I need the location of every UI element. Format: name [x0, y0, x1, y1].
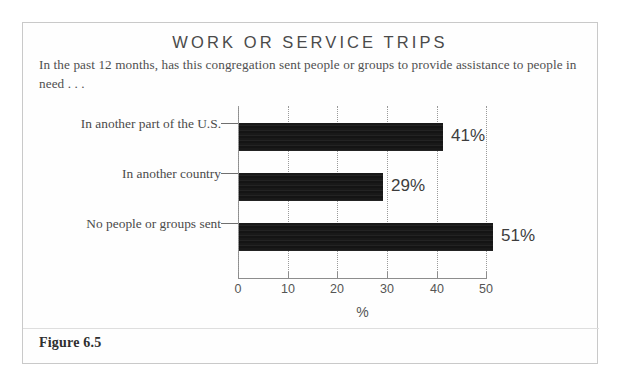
x-axis-label: % — [238, 304, 487, 320]
figure-frame: WORK OR SERVICE TRIPS In the past 12 mon… — [22, 22, 598, 364]
bar-value-1: 29% — [391, 176, 425, 196]
figure-caption: Figure 6.5 — [39, 335, 101, 351]
bar-2 — [239, 223, 493, 251]
category-connector-2 — [221, 223, 238, 224]
category-label-0: In another part of the U.S. — [21, 116, 221, 132]
xtick-label-50: 50 — [469, 282, 503, 296]
xtick-label-0: 0 — [221, 282, 255, 296]
category-label-1: In another country — [21, 166, 221, 182]
xtick-label-20: 20 — [320, 282, 354, 296]
category-connector-0 — [221, 123, 238, 124]
gridline-50 — [486, 106, 487, 278]
xtick-mark-40 — [437, 272, 438, 279]
xtick-label-40: 40 — [420, 282, 454, 296]
xtick-mark-10 — [288, 272, 289, 279]
xtick-mark-30 — [387, 272, 388, 279]
xtick-mark-0 — [238, 272, 239, 279]
category-label-2: No people or groups sent — [21, 216, 221, 232]
caption-divider — [23, 328, 599, 329]
xtick-mark-20 — [337, 272, 338, 279]
bar-1 — [239, 173, 383, 201]
bar-chart-plot-area: 0 10 20 30 40 50 % In another part of th… — [23, 23, 599, 365]
xtick-mark-50 — [486, 272, 487, 279]
x-axis-line — [238, 278, 487, 279]
category-connector-1 — [221, 173, 238, 174]
xtick-label-30: 30 — [370, 282, 404, 296]
bar-0 — [239, 123, 443, 151]
bar-value-2: 51% — [501, 226, 535, 246]
xtick-label-10: 10 — [271, 282, 305, 296]
bar-value-0: 41% — [451, 126, 485, 146]
